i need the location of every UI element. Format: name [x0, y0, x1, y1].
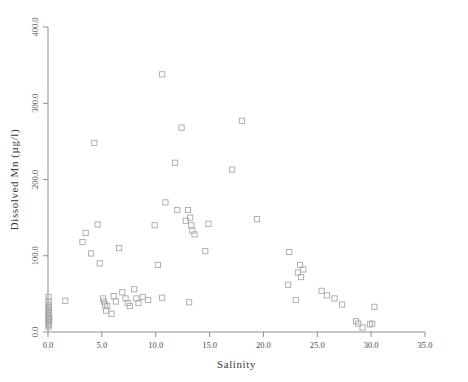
data-point	[146, 297, 151, 302]
data-point	[140, 294, 145, 299]
data-point	[113, 299, 118, 304]
data-point	[95, 222, 100, 227]
data-point	[332, 296, 337, 301]
scatter-plot-canvas: 0.05.010.015.020.025.030.035.00.0100.020…	[0, 0, 468, 382]
data-point	[80, 239, 85, 244]
x-tick-label: 35.0	[418, 340, 433, 350]
data-point	[97, 261, 102, 266]
data-point	[319, 288, 324, 293]
x-tick-label: 25.0	[310, 340, 325, 350]
data-point	[203, 249, 208, 254]
y-tick-label: 200.0	[30, 170, 40, 189]
data-point	[88, 251, 93, 256]
data-point	[192, 232, 197, 237]
y-tick-label: 300.0	[30, 94, 40, 113]
data-point	[293, 297, 298, 302]
data-point	[132, 287, 137, 292]
data-point	[173, 160, 178, 165]
x-tick-label: 0.0	[43, 340, 54, 350]
data-point	[230, 167, 235, 172]
data-point	[63, 298, 68, 303]
data-point	[239, 118, 244, 123]
data-point	[286, 282, 291, 287]
x-tick-label: 20.0	[256, 340, 271, 350]
data-point-group	[46, 72, 377, 330]
y-axis-title: Dissolved Mn (µg/l)	[8, 129, 21, 230]
data-point	[339, 302, 344, 307]
data-point	[109, 311, 114, 316]
data-point	[152, 223, 157, 228]
x-axis-title: Salinity	[217, 358, 256, 370]
data-point	[163, 200, 168, 205]
y-tick-label: 100.0	[30, 246, 40, 265]
data-point	[116, 246, 121, 251]
data-point	[155, 262, 160, 267]
data-point	[83, 230, 88, 235]
data-point	[175, 207, 180, 212]
x-tick-label: 10.0	[148, 340, 163, 350]
x-tick-label: 5.0	[97, 340, 108, 350]
data-point	[92, 140, 97, 145]
data-point	[324, 293, 329, 298]
data-point	[254, 217, 259, 222]
data-point	[160, 295, 165, 300]
x-tick-label: 30.0	[364, 340, 379, 350]
data-point	[187, 300, 192, 305]
data-point	[206, 221, 211, 226]
data-point	[185, 207, 190, 212]
data-point	[111, 294, 116, 299]
data-point	[179, 125, 184, 130]
data-point	[372, 304, 377, 309]
x-tick-label: 15.0	[202, 340, 217, 350]
data-point	[189, 223, 194, 228]
chart-figure: 0.05.010.015.020.025.030.035.00.0100.020…	[0, 0, 468, 382]
data-point	[160, 72, 165, 77]
y-tick-label: 0.0	[30, 327, 40, 338]
data-point	[120, 290, 125, 295]
y-tick-label: 400.0	[30, 17, 40, 36]
data-point	[287, 249, 292, 254]
